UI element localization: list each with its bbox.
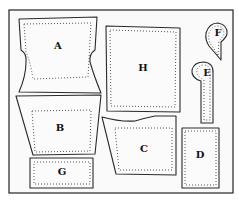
label-e: E: [203, 67, 211, 78]
piece-a: A: [19, 17, 101, 93]
label-b: B: [56, 122, 64, 133]
label-c: C: [140, 143, 148, 154]
pattern-diagram: A B G H C D E F: [0, 0, 239, 200]
label-a: A: [53, 40, 62, 51]
label-h: H: [138, 62, 147, 73]
label-d: D: [196, 149, 205, 160]
piece-d: D: [182, 128, 219, 188]
label-g: G: [58, 166, 67, 177]
piece-g: G: [30, 158, 93, 188]
label-f: F: [214, 27, 221, 38]
piece-h: H: [106, 26, 180, 112]
